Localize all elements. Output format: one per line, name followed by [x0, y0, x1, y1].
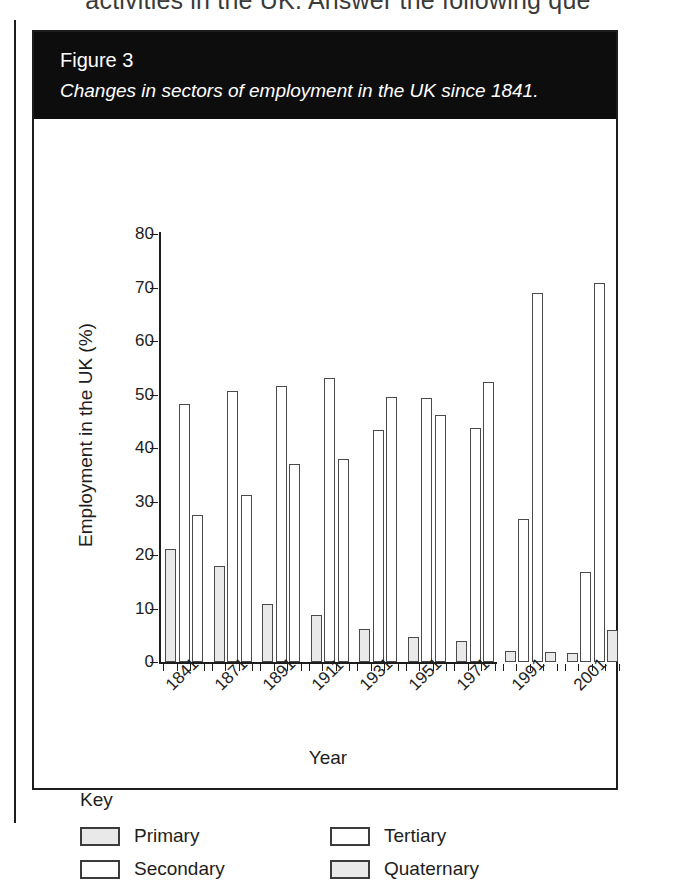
plot-bars — [159, 234, 489, 662]
bar-group — [311, 234, 349, 662]
page-margin-rule — [14, 20, 16, 823]
y-tick-mark — [150, 502, 158, 503]
key-label-quaternary: Quaternary — [384, 858, 479, 880]
bar-group — [456, 234, 494, 662]
bar-primary-1891 — [262, 604, 273, 662]
chart-key: Key Primary Tertiary Secondary Q — [80, 789, 600, 883]
x-axis-title: Year — [159, 747, 497, 769]
key-label-tertiary: Tertiary — [384, 825, 446, 847]
y-tick-mark — [150, 395, 158, 396]
bar-primary-1841 — [165, 549, 176, 662]
x-tick-mark — [503, 664, 504, 671]
y-tick-mark — [150, 234, 158, 235]
bar-group — [165, 234, 203, 662]
bar-secondary-1911 — [324, 378, 335, 662]
key-swatch-secondary — [80, 860, 120, 879]
bar-secondary-1841 — [179, 404, 190, 662]
bar-primary-1911 — [311, 615, 322, 662]
bar-tertiary-1931 — [386, 397, 397, 662]
bar-tertiary-1951 — [435, 415, 446, 662]
x-tick-mark — [446, 664, 447, 671]
bar-group — [214, 234, 252, 662]
bar-quaternary-1991 — [545, 652, 556, 662]
key-label-primary: Primary — [134, 825, 199, 847]
y-tick-mark — [150, 448, 158, 449]
y-tick-label: 30 — [114, 493, 154, 510]
x-tick-mark — [495, 664, 496, 671]
x-tick-mark — [260, 664, 261, 671]
bar-secondary-2001 — [580, 572, 591, 662]
key-row: Secondary Quaternary — [80, 858, 600, 880]
bar-tertiary-2001 — [594, 283, 605, 662]
chart-area: Employment in the UK (%) 010203040506070… — [34, 119, 616, 788]
y-tick-label: 40 — [114, 439, 154, 456]
x-tick-mark — [309, 664, 310, 671]
x-tick-mark — [357, 664, 358, 671]
bar-secondary-1951 — [421, 398, 432, 662]
bar-secondary-1871 — [227, 391, 238, 662]
bar-primary-2001 — [567, 653, 578, 662]
bar-group — [408, 234, 446, 662]
key-swatch-primary — [80, 827, 120, 846]
bar-primary-1871 — [214, 566, 225, 662]
y-tick-label: 20 — [114, 546, 154, 563]
bar-secondary-1991 — [518, 519, 529, 662]
bar-tertiary-1891 — [289, 464, 300, 662]
bar-tertiary-1991 — [532, 293, 543, 662]
bar-group — [505, 234, 557, 662]
figure-box: Figure 3 Changes in sectors of employmen… — [32, 30, 618, 790]
figure-header: Figure 3 Changes in sectors of employmen… — [34, 32, 616, 119]
x-tick-mark — [204, 664, 205, 671]
bar-group — [359, 234, 397, 662]
x-tick-mark — [516, 664, 517, 671]
x-tick-mark — [301, 664, 302, 671]
bar-tertiary-1871 — [241, 495, 252, 662]
bar-primary-1991 — [505, 651, 516, 662]
bar-tertiary-1911 — [338, 459, 349, 662]
y-tick-label: 60 — [114, 332, 154, 349]
x-tick-mark — [406, 664, 407, 671]
key-swatch-quaternary — [330, 860, 370, 879]
y-tick-label: 80 — [114, 225, 154, 242]
bar-primary-1951 — [408, 637, 419, 662]
x-axis-tick-labels: 184118711891191119311951197119912001 — [159, 675, 519, 735]
y-tick-mark — [150, 555, 158, 556]
bar-primary-1931 — [359, 629, 370, 662]
x-tick-mark — [163, 664, 164, 671]
bar-group — [567, 234, 619, 662]
y-tick-label: 10 — [114, 600, 154, 617]
key-item-tertiary: Tertiary — [330, 825, 580, 847]
y-tick-mark — [150, 609, 158, 610]
y-axis-tick-labels: 01020304050607080 — [94, 234, 154, 662]
bar-group — [262, 234, 300, 662]
x-tick-mark — [212, 664, 213, 671]
figure-number: Figure 3 — [60, 45, 616, 75]
x-tick-mark — [578, 664, 579, 671]
page-cut-off-text: activities in the UK. Answer the followi… — [0, 0, 676, 16]
key-item-secondary: Secondary — [80, 858, 330, 880]
x-tick-mark — [349, 664, 350, 671]
key-item-primary: Primary — [80, 825, 330, 847]
bar-quaternary-2001 — [607, 630, 618, 662]
x-tick-mark — [252, 664, 253, 671]
bar-tertiary-1841 — [192, 515, 203, 662]
y-axis-title-wrap: Employment in the UK (%) — [54, 234, 84, 662]
key-swatch-tertiary — [330, 827, 370, 846]
x-tick-mark — [619, 664, 620, 671]
bar-secondary-1891 — [276, 386, 287, 662]
key-label-secondary: Secondary — [134, 858, 225, 880]
x-tick-mark — [565, 664, 566, 671]
y-tick-mark — [150, 341, 158, 342]
y-tick-mark — [150, 662, 158, 663]
key-item-quaternary: Quaternary — [330, 858, 580, 880]
key-row: Primary Tertiary — [80, 825, 600, 847]
x-tick-mark — [557, 664, 558, 671]
figure-caption: Changes in sectors of employment in the … — [60, 75, 616, 107]
x-tick-mark — [398, 664, 399, 671]
bar-secondary-1931 — [373, 430, 384, 662]
bar-secondary-1971 — [470, 428, 481, 662]
key-title: Key — [80, 789, 600, 811]
bar-tertiary-1971 — [483, 382, 494, 662]
y-tick-label: 70 — [114, 279, 154, 296]
y-tick-label: 50 — [114, 386, 154, 403]
